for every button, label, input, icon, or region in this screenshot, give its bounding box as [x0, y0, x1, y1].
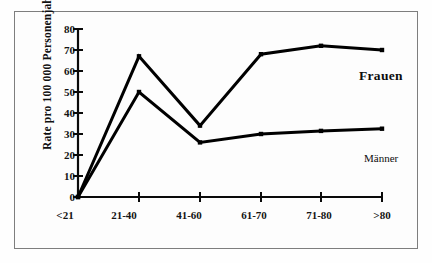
chart-figure: Rate pro 100 000 Personenjahre 80 70 60 … — [0, 0, 432, 263]
series-label-frauen: Frauen — [359, 68, 403, 84]
series-maenner-line — [76, 90, 384, 199]
x-axis — [78, 192, 382, 202]
y-axis — [73, 29, 83, 197]
chart-plot-area — [15, 12, 419, 250]
chart-frame: Rate pro 100 000 Personenjahre 80 70 60 … — [14, 11, 418, 249]
series-label-maenner: Männer — [364, 152, 398, 164]
